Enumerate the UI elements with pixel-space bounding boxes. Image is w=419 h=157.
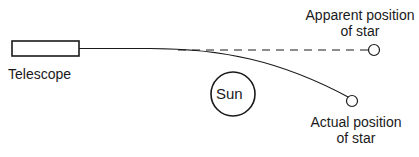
actual-star-icon	[347, 96, 358, 107]
apparent-star-icon	[369, 45, 380, 56]
apparent-star-label-line1: Apparent position	[302, 7, 418, 23]
actual-light-path	[79, 49, 350, 99]
apparent-star-label-line2: of star	[302, 23, 418, 39]
actual-star-label: Actual position of star	[298, 114, 414, 146]
actual-star-label-line2: of star	[298, 130, 414, 146]
sun-label: Sun	[216, 86, 243, 102]
telescope-label: Telescope	[8, 66, 71, 82]
telescope-shape	[12, 41, 79, 56]
actual-star-label-line1: Actual position	[298, 114, 414, 130]
apparent-star-label: Apparent position of star	[302, 7, 418, 39]
